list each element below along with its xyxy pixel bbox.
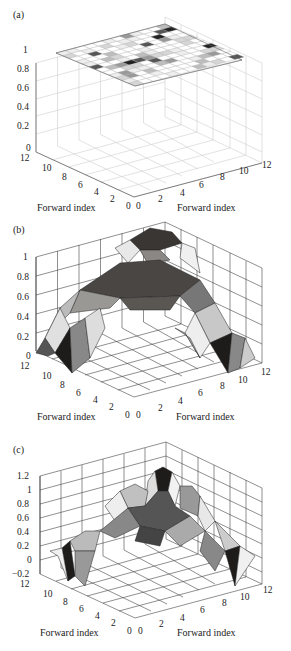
z-tick: 1 xyxy=(23,252,28,262)
right-tick: 8 xyxy=(222,598,227,608)
z-tick: 0.4 xyxy=(17,102,29,112)
left-tick: 2 xyxy=(111,618,116,628)
right-tick: 0 xyxy=(138,626,143,636)
left-tick: 0 xyxy=(127,626,132,636)
y-axis-label: Forward index xyxy=(177,627,236,638)
y-axis-label: Forward index xyxy=(176,411,235,422)
left-tick: 10 xyxy=(43,589,53,599)
left-tick: 4 xyxy=(95,611,100,621)
left-tick: 8 xyxy=(62,172,67,182)
z-tick: 0.2 xyxy=(17,541,29,551)
z-tick: 0.4 xyxy=(17,312,29,322)
x-axis-label: Forward index xyxy=(40,627,99,638)
y-axis-label: Forward index xyxy=(177,202,236,213)
right-tick: 6 xyxy=(198,388,203,398)
right-tick: 6 xyxy=(199,180,204,190)
left-tick: 12 xyxy=(20,361,30,371)
left-tick: 2 xyxy=(109,402,114,412)
z-tick: 0.4 xyxy=(17,527,29,537)
right-tick: 8 xyxy=(220,172,225,182)
panel-b-plot xyxy=(0,218,291,433)
left-tick: 6 xyxy=(76,388,81,398)
z-tick: 0.8 xyxy=(17,499,29,509)
right-tick: 10 xyxy=(238,375,248,385)
z-tick: 1 xyxy=(27,485,32,495)
left-tick: 0 xyxy=(125,410,130,420)
z-tick: 0.2 xyxy=(17,332,29,342)
right-tick: 4 xyxy=(178,396,183,406)
z-tick: 0.6 xyxy=(17,292,29,302)
right-tick: 12 xyxy=(261,367,271,377)
right-tick: 2 xyxy=(159,619,164,629)
x-axis-label: Forward index xyxy=(37,411,96,422)
panel-c: (c) 1.2 1 0.8 0.6 0.4 0.2 0 −0.2 12 10 8… xyxy=(0,436,291,651)
right-tick: 10 xyxy=(240,592,250,602)
z-tick: 1 xyxy=(23,45,28,55)
left-tick: 10 xyxy=(42,371,52,381)
left-tick: 4 xyxy=(93,395,98,405)
z-tick: 0.6 xyxy=(17,83,29,93)
left-tick: 12 xyxy=(20,153,30,163)
panel-b: (b) 1 0.8 0.6 0.4 0.2 0 12 10 8 6 4 2 0 … xyxy=(0,218,291,433)
right-tick: 12 xyxy=(263,585,273,595)
right-tick: 10 xyxy=(239,166,249,176)
surface-c xyxy=(50,467,255,586)
right-tick: 6 xyxy=(200,605,205,615)
right-tick: 4 xyxy=(180,613,185,623)
left-tick: 10 xyxy=(42,163,52,173)
right-tick: 12 xyxy=(262,160,272,170)
surface-b xyxy=(36,228,255,373)
z-tick: 0 xyxy=(26,143,31,153)
right-tick: 2 xyxy=(158,194,163,204)
z-tick: 0.6 xyxy=(17,513,29,523)
left-tick: 0 xyxy=(126,201,131,211)
panel-c-label: (c) xyxy=(13,444,24,455)
left-tick: 2 xyxy=(110,194,115,204)
panel-a-plot xyxy=(0,0,291,215)
panel-a: (a) 1 0.8 0.6 0.4 0.2 0 12 10 8 6 4 2 0 … xyxy=(0,0,291,215)
left-tick: 6 xyxy=(79,604,84,614)
z-tick: 0.8 xyxy=(17,272,29,282)
panel-c-plot xyxy=(0,436,291,651)
left-tick: 6 xyxy=(78,180,83,190)
panel-a-label: (a) xyxy=(13,9,24,20)
z-tick: 0 xyxy=(26,351,31,361)
z-tick: 1.2 xyxy=(17,471,29,481)
left-tick: 4 xyxy=(94,187,99,197)
surface-a-cells xyxy=(56,24,244,86)
right-tick: 8 xyxy=(220,381,225,391)
z-tick: 0.2 xyxy=(17,121,29,131)
z-tick: 0.8 xyxy=(17,64,29,74)
left-tick: 8 xyxy=(60,380,65,390)
z-tick: 0 xyxy=(27,555,32,565)
right-tick: 0 xyxy=(136,201,141,211)
right-tick: 4 xyxy=(180,188,185,198)
right-tick: 2 xyxy=(158,403,163,413)
panel-b-label: (b) xyxy=(13,224,25,235)
x-axis-label: Forward index xyxy=(37,202,96,213)
z-tick: −0.2 xyxy=(12,569,29,579)
right-tick: 0 xyxy=(136,410,141,420)
left-tick: 8 xyxy=(63,597,68,607)
left-tick: 12 xyxy=(20,579,30,589)
